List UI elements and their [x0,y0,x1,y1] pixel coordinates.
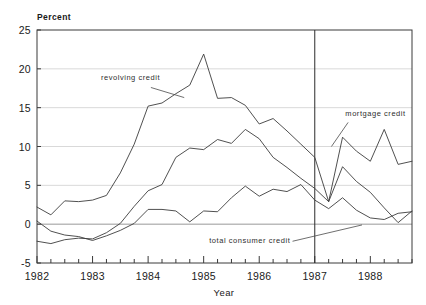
x-tick-label: 1984 [136,270,161,282]
y-tick-label: 10 [19,141,31,153]
x-tick-label: 1987 [302,270,327,282]
x-axis-title: Year [214,287,235,298]
series-group [37,54,412,244]
annotation-leader [293,225,362,241]
y-tick-label: 20 [19,63,31,75]
y-tick-label: 5 [25,179,31,191]
x-tick-label: 1985 [191,270,216,282]
series-line [37,54,412,223]
y-tick-label: 15 [19,102,31,114]
annotation-label: total consumer credit [209,236,291,245]
annotation-label: revolving credit [101,73,161,82]
annotations-group: revolving creditmortgage credittotal con… [101,73,406,245]
x-tick-labels-group: 1982198319841985198619871988 [25,270,383,282]
annotation-label: mortgage credit [345,109,406,118]
annotation-leader [331,122,348,146]
y-ticks-group [37,30,41,263]
x-tick-label: 1982 [25,270,50,282]
series-line [37,185,412,241]
y-axis-title: Percent [37,12,71,22]
annotation-leader [151,87,184,97]
y-tick-label: 0 [25,218,31,230]
y-tick-label: -5 [21,257,31,269]
y-tick-labels-group: -50510152025 [19,24,31,269]
x-tick-label: 1986 [247,270,272,282]
y-tick-label: 25 [19,24,31,36]
x-ticks-group [37,256,412,263]
credit-growth-chart: revolving creditmortgage credittotal con… [0,0,426,305]
chart-svg: revolving creditmortgage credittotal con… [0,0,426,305]
x-tick-label: 1988 [358,270,383,282]
gridlines-group [37,69,412,185]
x-tick-label: 1983 [80,270,105,282]
